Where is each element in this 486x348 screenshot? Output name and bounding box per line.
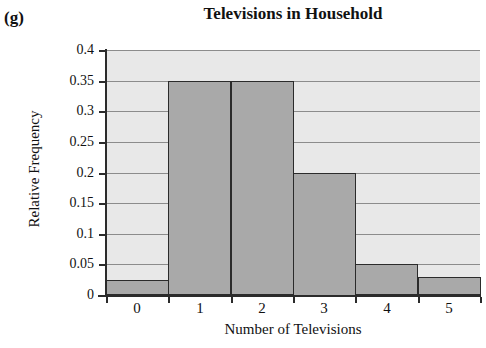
histogram-figure: (g) Televisions in Household 0.40.350.30… [0,0,486,348]
y-axis-tick-mark [99,111,106,113]
x-axis-tick-label: 4 [367,300,407,317]
bar [231,81,294,295]
y-axis-tick-label: 0.2 [77,166,95,180]
y-axis-tick-mark [99,264,106,266]
bar [355,264,418,295]
x-axis-tick-mark [231,297,233,303]
y-axis-tick-mark [99,50,106,52]
y-axis-tick-label: 0.15 [70,196,95,210]
y-axis-tick-mark [99,173,106,175]
bar [168,81,231,295]
gridline [106,50,480,51]
x-axis-tick-mark [293,297,295,303]
bar [418,277,481,295]
panel-label: (g) [4,8,24,28]
y-axis-tick-label: 0.1 [77,227,95,241]
x-axis-tick-mark [418,297,420,303]
x-axis-tick-label: 5 [429,300,469,317]
y-axis-tick-mark [99,234,106,236]
y-axis-tick-label: 0.25 [70,135,95,149]
y-axis-title: Relative Frequency [25,69,43,269]
x-axis-tick-label: 0 [117,300,157,317]
plot-area [106,50,480,295]
x-axis-tick-label: 3 [304,300,344,317]
x-axis-title: Number of Televisions [106,320,480,338]
x-axis-line [98,295,481,297]
x-axis-tick-mark [168,297,170,303]
y-axis-tick-label: 0.4 [77,43,95,57]
x-axis-tick-mark [106,297,108,303]
chart-title: Televisions in Household [106,3,480,25]
bar [106,280,169,295]
y-axis-tick-label: 0.35 [70,74,95,88]
x-axis-tick-mark [480,297,482,303]
y-axis-tick-mark [99,142,106,144]
x-axis-tick-label: 2 [242,300,282,317]
y-axis-tick-mark [99,295,106,297]
x-axis-tick-mark [355,297,357,303]
bar [293,173,356,296]
y-axis-tick-label: 0 [87,288,94,302]
y-axis-tick-mark [99,203,106,205]
y-axis-tick-label: 0.3 [77,104,95,118]
y-axis-tick-mark [99,81,106,83]
y-axis-tick-label: 0.05 [70,257,95,271]
x-axis-tick-label: 1 [180,300,220,317]
